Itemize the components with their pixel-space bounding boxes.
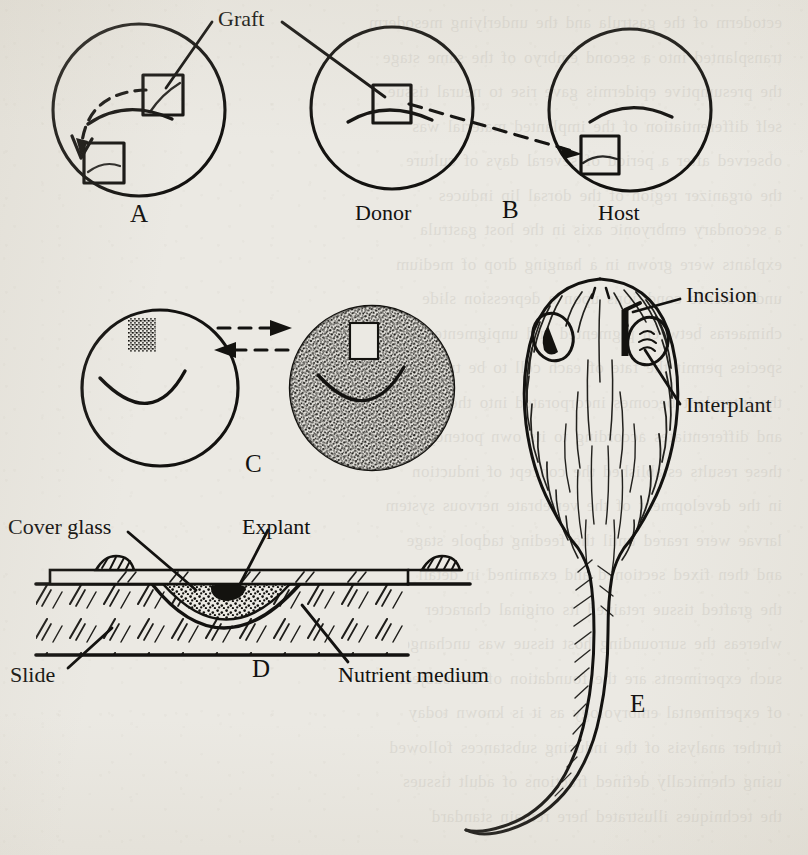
label-cover-glass: Cover glass [8,514,111,540]
label-donor: Donor [355,200,411,226]
panel-letter-a: A [130,200,148,228]
panel-letter-c: C [245,450,262,478]
figure-illustration [0,0,808,855]
panel-c-unpigmented-embryo [82,310,238,466]
panel-c-pigmented-embryo [290,306,454,470]
figure-page: ectoderm of the gastrula and the underly… [0,0,808,855]
label-host: Host [598,200,640,226]
label-nutrient-medium: Nutrient medium [338,662,489,688]
panel-a-drawing [53,24,225,196]
panel-letter-d: D [252,655,270,683]
panel-e-tadpole-drawing [466,279,678,834]
panel-letter-b: B [502,196,519,224]
panel-letter-e: E [630,690,645,718]
label-explant: Explant [242,514,310,540]
label-slide: Slide [10,662,55,688]
panel-b-donor-drawing [311,27,473,189]
label-interplant: Interplant [686,392,772,418]
panel-d-drawing [36,556,470,655]
panel-b-host-drawing [549,29,711,191]
donor-to-host-arrow [409,104,582,159]
label-incision: Incision [686,282,757,308]
label-graft: Graft [218,6,264,32]
panel-c-exchange-arrows [214,320,292,358]
